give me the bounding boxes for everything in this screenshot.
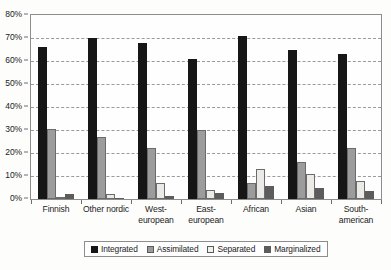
- x-axis-label-line: South-: [331, 204, 381, 215]
- x-axis-label: East-european: [181, 204, 231, 226]
- legend-swatch-icon: [207, 246, 214, 253]
- x-axis-tick-mark: [381, 200, 382, 204]
- y-axis-tick-mark: [24, 129, 28, 130]
- x-axis-label: Asian: [281, 204, 331, 226]
- bar-separated: [156, 183, 165, 199]
- chart-legend: IntegratedAssimilatedSeparatedMarginaliz…: [84, 241, 328, 257]
- y-axis-tick-mark: [24, 175, 28, 176]
- bar-integrated: [138, 43, 147, 199]
- y-axis-tick-mark: [24, 37, 28, 38]
- x-axis-label-line: African: [231, 204, 281, 215]
- x-axis-labels: FinnishOther nordicWest-europeanEast-eur…: [31, 204, 381, 226]
- bar-marginalized: [315, 188, 324, 200]
- bar-assimilated: [297, 162, 306, 199]
- bar-assimilated: [197, 130, 206, 199]
- bar-marginalized: [65, 194, 74, 199]
- legend-item-integrated[interactable]: Integrated: [91, 244, 138, 254]
- x-axis-label-line: Asian: [281, 204, 331, 215]
- bar-marginalized: [165, 196, 174, 199]
- bar-separated: [106, 194, 115, 199]
- bar-integrated: [188, 59, 197, 199]
- bar-marginalized: [365, 191, 374, 199]
- bar-marginalized: [115, 198, 124, 199]
- bar-separated: [306, 174, 315, 199]
- legend-swatch-icon: [264, 246, 271, 253]
- legend-label: Integrated: [101, 244, 138, 254]
- bar-cluster: [81, 15, 131, 199]
- legend-swatch-icon: [147, 246, 154, 253]
- x-axis-label: African: [231, 204, 281, 226]
- legend-label: Separated: [217, 244, 255, 254]
- y-axis-tick-mark: [24, 14, 28, 15]
- x-axis-label-line: West-: [131, 204, 181, 215]
- x-axis-label-line: Finnish: [31, 204, 81, 215]
- x-axis-label-line: Other nordic: [81, 204, 131, 215]
- bar-assimilated: [347, 148, 356, 199]
- y-axis-tick-mark: [24, 83, 28, 84]
- bar-cluster: [181, 15, 231, 199]
- legend-label: Marginalized: [274, 244, 320, 254]
- bar-chart: 0%10%20%30%40%50%60%70%80% FinnishOther …: [0, 0, 391, 270]
- x-axis-label-line: East-: [181, 204, 231, 215]
- x-axis-label-line: european: [181, 215, 231, 226]
- bar-assimilated: [147, 148, 156, 199]
- y-axis-tick-mark: [24, 60, 28, 61]
- y-axis-tick-label: 50%: [5, 78, 22, 88]
- y-axis-tick-label: 0%: [10, 193, 22, 203]
- y-axis-tick-label: 20%: [5, 147, 22, 157]
- bar-marginalized: [265, 186, 274, 199]
- legend-item-assimilated[interactable]: Assimilated: [147, 244, 199, 254]
- x-axis-label: South-american: [331, 204, 381, 226]
- y-axis-tick-label: 80%: [5, 9, 22, 19]
- y-axis-tick-label: 70%: [5, 32, 22, 42]
- bar-cluster: [31, 15, 81, 199]
- bar-separated: [206, 190, 215, 199]
- bar-clusters: [31, 15, 381, 199]
- bar-assimilated: [47, 129, 56, 199]
- legend-swatch-icon: [91, 246, 98, 253]
- y-axis-tick-label: 10%: [5, 170, 22, 180]
- y-axis-tick-mark: [24, 152, 28, 153]
- legend-item-marginalized[interactable]: Marginalized: [264, 244, 320, 254]
- y-axis-tick-label: 60%: [5, 55, 22, 65]
- bar-cluster: [131, 15, 181, 199]
- bar-integrated: [288, 50, 297, 200]
- y-axis-tick-label: 30%: [5, 124, 22, 134]
- bar-separated: [56, 197, 65, 199]
- bar-separated: [256, 169, 265, 199]
- bar-cluster: [231, 15, 281, 199]
- bar-cluster: [331, 15, 381, 199]
- bar-integrated: [38, 47, 47, 199]
- legend-label: Assimilated: [157, 244, 199, 254]
- x-axis-label: West-european: [131, 204, 181, 226]
- y-axis-tick-mark: [24, 198, 28, 199]
- x-axis-label: Finnish: [31, 204, 81, 226]
- legend-item-separated[interactable]: Separated: [207, 244, 255, 254]
- y-axis: 0%10%20%30%40%50%60%70%80%: [0, 14, 28, 200]
- bar-marginalized: [215, 193, 224, 199]
- bar-cluster: [281, 15, 331, 199]
- y-axis-tick-label: 40%: [5, 101, 22, 111]
- x-axis-label-line: american: [331, 215, 381, 226]
- bar-integrated: [338, 54, 347, 199]
- x-axis-label-line: european: [131, 215, 181, 226]
- bar-assimilated: [247, 183, 256, 199]
- y-axis-tick-mark: [24, 106, 28, 107]
- bar-separated: [356, 181, 365, 199]
- bar-integrated: [88, 38, 97, 199]
- bar-integrated: [238, 36, 247, 199]
- bar-assimilated: [97, 137, 106, 199]
- x-axis-label: Other nordic: [81, 204, 131, 226]
